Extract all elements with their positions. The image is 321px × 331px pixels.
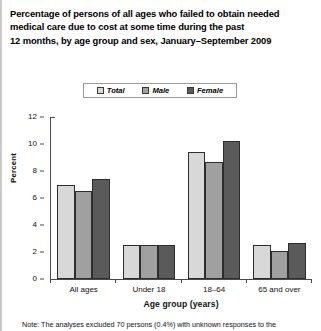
y-tick-mark xyxy=(40,144,44,145)
y-tick-mark xyxy=(40,171,44,172)
y-tick-label: 2 xyxy=(21,248,37,256)
x-tick-label: 65 and over xyxy=(258,285,300,294)
x-tick-mark xyxy=(181,279,182,283)
bar-male-2 xyxy=(205,162,223,279)
bar-female-1 xyxy=(158,245,176,279)
y-tick-label: 8 xyxy=(21,167,37,175)
bar-total-1 xyxy=(123,245,141,279)
y-tick-label: 12 xyxy=(21,113,37,121)
x-tick-mark xyxy=(115,279,116,283)
bar-group xyxy=(123,117,176,279)
x-tick-label: Under 18 xyxy=(132,285,165,294)
bar-total-2 xyxy=(188,152,206,279)
y-tick-mark xyxy=(40,117,44,118)
bar-female-3 xyxy=(288,243,306,279)
x-tick-label: All ages xyxy=(69,285,97,294)
bar-male-0 xyxy=(75,191,93,279)
y-axis-ticks: 024681012 xyxy=(22,112,44,287)
bar-groups xyxy=(51,117,312,279)
x-axis-labels: All agesUnder 1818–6465 and over xyxy=(50,285,312,297)
x-axis-title: Age group (years) xyxy=(50,299,312,309)
y-tick-label: 6 xyxy=(21,194,37,202)
y-tick-mark xyxy=(40,198,44,199)
y-tick-mark xyxy=(40,225,44,226)
bar-male-1 xyxy=(140,245,158,279)
bar-female-0 xyxy=(92,179,110,279)
bar-group xyxy=(253,117,306,279)
x-tick-mark xyxy=(246,279,247,283)
y-tick-label: 0 xyxy=(21,275,37,283)
bar-male-3 xyxy=(271,251,289,279)
bar-group xyxy=(57,117,110,279)
bar-group xyxy=(188,117,241,279)
x-tick-mark xyxy=(50,279,51,283)
chart-footnote: Note: The analyses excluded 70 persons (… xyxy=(22,320,317,331)
y-tick-mark xyxy=(40,279,44,280)
chart-plot-area: Percent 024681012 All agesUnder 1818–646… xyxy=(0,0,321,331)
x-tick-mark xyxy=(311,279,312,283)
y-axis-title: Percent xyxy=(9,153,18,183)
bar-total-0 xyxy=(57,185,75,280)
y-tick-mark xyxy=(40,252,44,253)
bar-total-3 xyxy=(253,245,271,279)
bar-female-2 xyxy=(223,141,241,279)
x-tick-label: 18–64 xyxy=(203,285,225,294)
y-tick-label: 10 xyxy=(21,140,37,148)
y-tick-label: 4 xyxy=(21,221,37,229)
